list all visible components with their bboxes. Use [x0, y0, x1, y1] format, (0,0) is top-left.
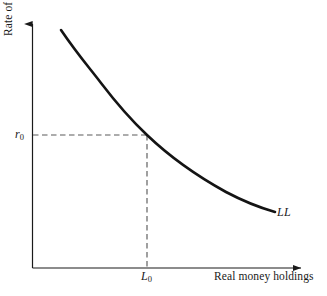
ll-curve-label: LL — [277, 206, 291, 218]
liquidity-preference-figure: Rate of interest Real money holdings r0 … — [0, 0, 327, 296]
figure-canvas — [0, 0, 327, 296]
x-axis-label: Real money holdings — [214, 271, 314, 283]
y-axis-tick-label-r0: r0 — [15, 128, 24, 142]
l0-subscript: 0 — [148, 274, 152, 284]
y-axis-label: Rate of interest — [3, 0, 17, 36]
x-axis-tick-label-l0: L0 — [141, 270, 152, 284]
l0-base: L — [141, 269, 148, 283]
r0-subscript: 0 — [20, 132, 24, 142]
ll-curve — [61, 30, 275, 212]
